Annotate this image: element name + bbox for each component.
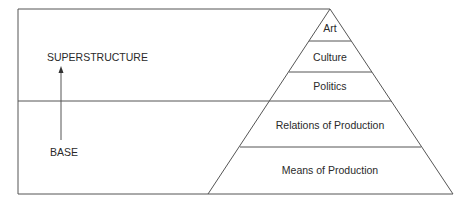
tier-label-politics: Politics	[313, 80, 346, 92]
tier-label-relations-of-production: Relations of Production	[276, 119, 385, 131]
up-arrow-icon	[59, 66, 64, 140]
tier-label-culture: Culture	[313, 51, 347, 63]
tier-label-art: Art	[323, 22, 337, 34]
superstructure-label: SUPERSTRUCTURE	[47, 51, 148, 63]
base-label: BASE	[50, 146, 78, 158]
base-superstructure-diagram: SUPERSTRUCTURE BASE Art Culture Politics…	[0, 0, 467, 206]
tier-label-means-of-production: Means of Production	[282, 164, 378, 176]
